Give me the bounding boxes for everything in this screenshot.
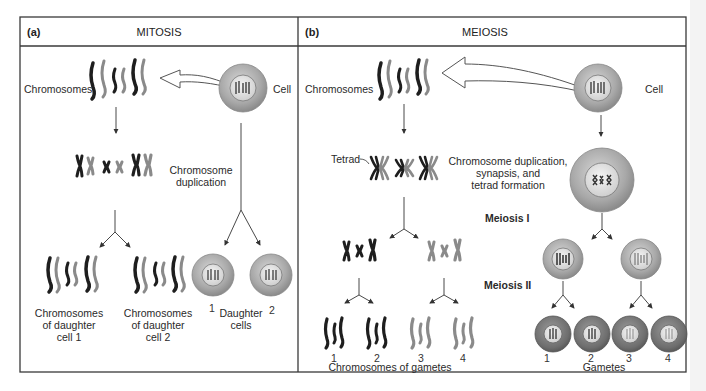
gamete-number-3: 3 (626, 352, 632, 364)
arrow-daughter-1 (225, 210, 241, 245)
mitosis-title: MITOSIS (136, 26, 181, 38)
meiosis-duplication-label-3: tetrad formation (471, 179, 545, 191)
meiosis-chromosomes (379, 60, 428, 99)
meiosis-duplication-label-1: Chromosome duplication, (448, 155, 567, 167)
daughter-1-chromosomes (48, 257, 97, 292)
daughter-cell-2 (250, 254, 292, 296)
gamete-number-1: 1 (544, 352, 550, 364)
mitosis-branch-arrows (100, 210, 130, 247)
meiosis-panel-letter: (b) (305, 26, 319, 38)
daughter-cells-label-2: cells (230, 319, 251, 331)
gamete-chromosome-number-4: 4 (460, 352, 466, 364)
daughter-2-chromosomes (135, 257, 184, 292)
meiosis-chromosomes-label: Chromosomes (305, 83, 373, 95)
gamete-number-4: 4 (665, 352, 671, 364)
gamete-chromosomes (326, 318, 473, 348)
gametes-label: Gametes (583, 361, 626, 373)
mitosis-cell-label: Cell (273, 83, 291, 95)
daughter-1-label-2: of daughter (42, 319, 95, 331)
meiosis-1-cell-right (621, 239, 661, 279)
mitosis-panel-letter: (a) (27, 26, 40, 38)
daughter-cell-1 (192, 254, 234, 296)
daughter-cell-number-2: 2 (269, 304, 275, 316)
tetrad-pointer (360, 159, 369, 164)
meiosis-duplication-label-2: synapsis, and (476, 167, 540, 179)
gamete-2 (574, 316, 610, 352)
daughter-1-label-3: cell 1 (57, 331, 82, 343)
meiosis-1-chromosomes-light (429, 240, 460, 260)
daughter-1-label-1: Chromosomes (35, 307, 103, 319)
meiosis-cell-label: Cell (645, 83, 663, 95)
gamete-1 (535, 316, 571, 352)
daughter-2-label-2: of daughter (131, 319, 184, 331)
gamete-4 (651, 316, 687, 352)
mitosis-duplicated-chromosomes (77, 155, 151, 176)
daughter-cell-number-1: 1 (209, 302, 215, 314)
tetrads (371, 157, 437, 179)
arrow-daughter-2 (241, 210, 260, 245)
meiosis-2-label: Meiosis II (484, 279, 531, 291)
cell-division-diagram (0, 0, 706, 391)
meiosis-1-label: Meiosis I (485, 212, 529, 224)
mitosis-parent-cell (219, 64, 267, 112)
meiosis-title: MEIOSIS (462, 26, 508, 38)
mitosis-chromosomes-label: Chromosomes (24, 83, 92, 95)
mitosis-duplication-label-1: Chromosome (169, 164, 232, 176)
tetrad-label: Tetrad (331, 153, 360, 165)
mitosis-chromosomes (91, 60, 145, 99)
meiosis-tetrad-cell (570, 148, 634, 212)
hollow-arrow-meiosis (442, 57, 583, 92)
daughter-cells-label-1: Daughter (219, 307, 262, 319)
daughter-2-label-3: cell 2 (146, 331, 171, 343)
gamete-chromosomes-label: Chromosomes of gametes (328, 361, 451, 373)
gamete-3 (612, 316, 648, 352)
meiosis-parent-cell (574, 64, 622, 112)
daughter-2-label-1: Chromosomes (124, 307, 192, 319)
mitosis-duplication-label-2: duplication (176, 176, 226, 188)
meiosis-1-chromosomes-dark (344, 240, 375, 260)
meiosis-1-cell-left (543, 239, 583, 279)
